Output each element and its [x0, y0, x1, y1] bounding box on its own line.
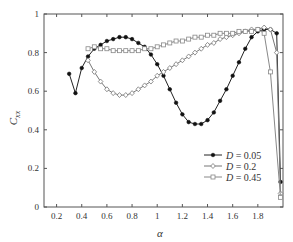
square-marker — [243, 29, 247, 33]
star-marker — [275, 32, 279, 36]
star-marker — [225, 87, 229, 91]
x-tick-label: 1.4 — [202, 211, 214, 221]
square-marker — [199, 35, 203, 39]
star-marker — [99, 43, 103, 47]
diamond-marker — [174, 62, 179, 67]
star-marker — [137, 41, 141, 45]
star-marker — [237, 60, 241, 64]
diamond-marker — [136, 87, 141, 92]
star-marker — [211, 153, 215, 157]
diamond-marker — [211, 164, 216, 169]
y-tick-label: 0.8 — [28, 48, 40, 58]
square-marker — [278, 195, 282, 199]
square-marker — [206, 33, 210, 37]
star-marker — [130, 37, 134, 41]
square-marker — [174, 39, 178, 43]
star-marker — [111, 37, 115, 41]
square-marker — [92, 45, 96, 49]
square-marker — [143, 47, 147, 51]
square-marker — [218, 31, 222, 35]
legend-label: D = 0.05 — [225, 150, 261, 161]
square-marker — [117, 49, 121, 53]
square-marker — [124, 49, 128, 53]
star-marker — [149, 53, 153, 57]
star-marker — [243, 47, 247, 51]
square-marker — [268, 70, 272, 74]
star-marker — [231, 74, 235, 78]
diamond-marker — [111, 91, 116, 96]
legend-item: D = 0.2 — [204, 161, 256, 172]
x-axis-label: α — [157, 227, 163, 239]
x-tick-label: 1.2 — [177, 211, 188, 221]
star-marker — [212, 111, 216, 115]
x-tick-label: 1 — [155, 211, 160, 221]
star-marker — [67, 72, 71, 76]
x-tick-label: 0.6 — [101, 211, 113, 221]
diamond-marker — [199, 46, 204, 51]
y-tick-label: 1 — [35, 9, 40, 19]
square-marker — [99, 47, 103, 51]
legend: D = 0.05D = 0.2D = 0.45 — [204, 150, 261, 183]
y-tick-label: 0.2 — [28, 163, 39, 173]
star-marker — [118, 35, 122, 39]
line-chart: 0.20.40.60.811.21.41.61.800.20.40.60.81 … — [0, 0, 293, 242]
star-marker — [250, 35, 254, 39]
star-marker — [174, 101, 178, 105]
x-tick-label: 0.8 — [126, 211, 138, 221]
square-marker — [111, 49, 115, 53]
diamond-marker — [268, 27, 273, 32]
square-marker — [231, 31, 235, 35]
diamond-marker — [142, 83, 147, 88]
x-tick-label: 0.2 — [51, 211, 62, 221]
legend-label: D = 0.45 — [225, 172, 261, 183]
y-tick-label: 0 — [35, 202, 40, 212]
diamond-marker — [130, 91, 135, 96]
square-marker — [212, 33, 216, 37]
star-marker — [187, 120, 191, 124]
diamond-marker — [117, 93, 122, 98]
star-marker — [124, 35, 128, 39]
star-marker — [168, 87, 172, 91]
star-marker — [80, 66, 84, 70]
star-marker — [74, 91, 78, 95]
diamond-marker — [212, 40, 217, 45]
square-marker — [256, 27, 260, 31]
legend-label: D = 0.2 — [225, 161, 256, 172]
square-marker — [250, 29, 254, 33]
star-marker — [105, 39, 109, 43]
square-marker — [211, 175, 215, 179]
legend-item: D = 0.05 — [204, 150, 261, 161]
diamond-marker — [180, 58, 185, 63]
x-tick-label: 0.4 — [76, 211, 88, 221]
square-marker — [237, 29, 241, 33]
diamond-marker — [274, 50, 279, 55]
square-marker — [162, 43, 166, 47]
star-marker — [199, 122, 203, 126]
y-tick-label: 0.6 — [28, 86, 40, 96]
diamond-marker — [193, 50, 198, 55]
star-marker — [193, 122, 197, 126]
square-marker — [168, 41, 172, 45]
y-tick-label: 0.4 — [28, 125, 40, 135]
square-marker — [86, 47, 90, 51]
star-marker — [206, 118, 210, 122]
legend-item: D = 0.45 — [204, 172, 261, 183]
square-marker — [187, 37, 191, 41]
star-marker — [155, 62, 159, 66]
square-marker — [180, 39, 184, 43]
x-tick-label: 1.8 — [252, 211, 264, 221]
diamond-marker — [218, 37, 223, 42]
star-marker — [181, 113, 185, 117]
diamond-marker — [186, 54, 191, 59]
square-marker — [149, 47, 153, 51]
diamond-marker — [205, 42, 210, 47]
square-marker — [193, 35, 197, 39]
diamond-marker — [123, 93, 128, 98]
square-marker — [262, 31, 266, 35]
plot-axes: 0.20.40.60.811.21.41.61.800.20.40.60.81 — [28, 9, 283, 221]
square-marker — [136, 49, 140, 53]
square-marker — [224, 31, 228, 35]
square-marker — [130, 49, 134, 53]
x-tick-label: 1.6 — [227, 211, 239, 221]
square-marker — [105, 47, 109, 51]
